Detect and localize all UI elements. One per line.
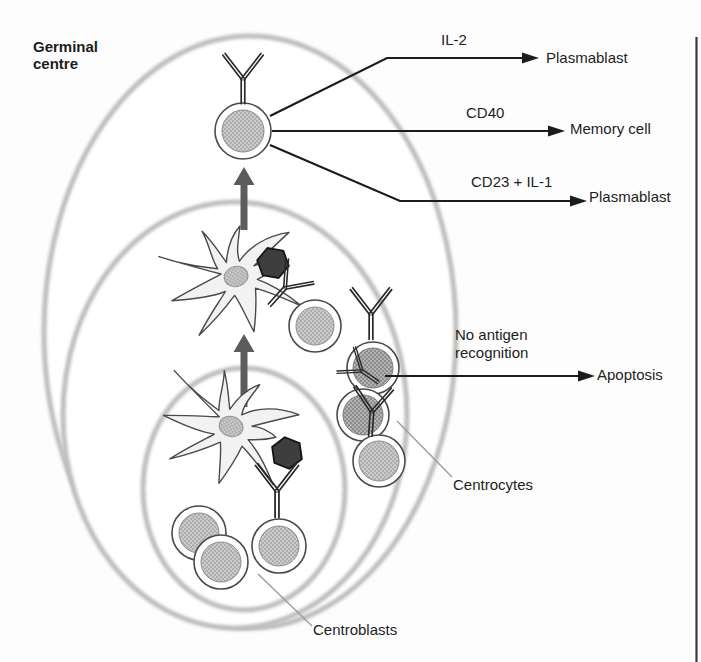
centrocyte-cell <box>353 435 405 487</box>
label-outcome-memory-cell: Memory cell <box>570 120 651 138</box>
centroblast-cell-with-ig <box>252 519 306 573</box>
diagram-canvas <box>0 0 701 662</box>
b-cell-bound-to-fdc <box>289 300 341 352</box>
label-signal-il2: IL-2 <box>441 31 467 49</box>
arrowhead-icon <box>548 126 565 137</box>
label-outcome-plasmablast-1: Plasmablast <box>546 49 628 67</box>
label-centrocytes: Centrocytes <box>453 476 533 494</box>
centroblast-cell <box>194 535 248 589</box>
arrowhead-icon <box>522 53 539 64</box>
arrowhead-icon <box>578 371 595 382</box>
arrowhead-icon <box>570 196 587 207</box>
label-outcome-plasmablast-2: Plasmablast <box>589 188 671 206</box>
label-centroblasts: Centroblasts <box>313 621 397 639</box>
label-signal-no-antigen-recognition: No antigen recognition <box>455 326 547 362</box>
label-germinal-centre: Germinal centre <box>33 38 115 72</box>
label-signal-cd40: CD40 <box>466 104 504 122</box>
label-outcome-apoptosis: Apoptosis <box>597 366 663 384</box>
label-signal-cd23-il1: CD23 + IL-1 <box>471 173 552 191</box>
germinal-centre-figure: Germinal centre IL-2 Plasmablast CD40 Me… <box>0 0 701 662</box>
selected-b-cell <box>215 103 271 159</box>
